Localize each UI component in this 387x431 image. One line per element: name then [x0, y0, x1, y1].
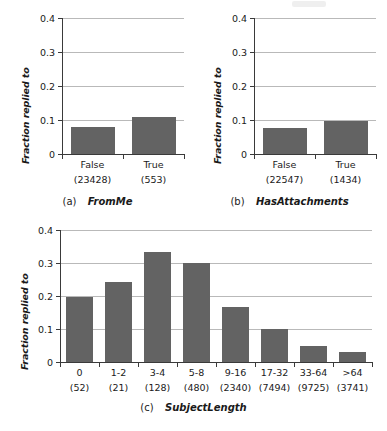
x-axis-count-label: (1434) [315, 174, 376, 185]
x-axis-count-label: (7494) [255, 382, 294, 393]
y-axis-tick-label: 0.1 [214, 115, 247, 126]
y-axis-tick-label: 0.4 [20, 225, 53, 236]
gridline [62, 18, 184, 19]
bar [183, 263, 210, 362]
x-axis-tick [184, 155, 185, 159]
y-axis-line [60, 230, 61, 363]
bar [71, 127, 115, 154]
x-axis-category-label: 0 [60, 367, 99, 378]
y-axis-tick-label: 0.2 [22, 81, 55, 92]
gridline [254, 86, 376, 87]
bar [144, 252, 171, 362]
y-axis-tick-label: 0.3 [214, 47, 247, 58]
gridline [60, 230, 372, 231]
x-axis-category-label: 5-8 [177, 367, 216, 378]
y-axis-tick-label: 0 [20, 357, 53, 368]
subcaption-a: (a) FromMe [0, 196, 195, 207]
x-axis-count-label: (553) [123, 174, 184, 185]
x-axis-tick [372, 363, 373, 367]
x-axis-count-label: (9725) [294, 382, 333, 393]
subcaption-a-title: FromMe [88, 196, 133, 207]
bar [339, 352, 366, 362]
x-axis-category-label: 17-32 [255, 367, 294, 378]
chart-panel-c: Fraction replied to 0(52)1-2(21)3-4(128)… [0, 224, 387, 431]
gridline [62, 86, 184, 87]
y-axis-tick-label: 0.2 [20, 291, 53, 302]
gridline [254, 52, 376, 53]
y-axis-tick-label: 0.3 [20, 258, 53, 269]
bar [66, 297, 93, 362]
x-axis-category-label: 9-16 [216, 367, 255, 378]
chart-panel-a: Fraction replied to False(23428)True(553… [0, 14, 195, 214]
y-axis-label-c: Fraction replied to [19, 273, 30, 370]
subcaption-b-tag: (b) [230, 196, 244, 207]
y-axis-tick-label: 0.3 [22, 47, 55, 58]
x-axis-category-label: False [62, 159, 123, 170]
y-axis-tick-label: 0.2 [214, 81, 247, 92]
x-axis-category-label: 1-2 [99, 367, 138, 378]
x-axis-count-label: (128) [138, 382, 177, 393]
subcaption-c-title: SubjectLength [165, 402, 247, 413]
y-axis-tick-label: 0.4 [214, 13, 247, 24]
gridline [62, 52, 184, 53]
page-bleed-artifact [292, 1, 326, 7]
x-axis-count-label: (21) [99, 382, 138, 393]
y-axis-line [62, 18, 63, 155]
x-axis-category-label: True [315, 159, 376, 170]
y-axis-tick-label: 0 [214, 149, 247, 160]
x-axis-count-label: (23428) [62, 174, 123, 185]
subcaption-c-tag: (c) [140, 402, 153, 413]
bar [324, 121, 368, 154]
x-axis-count-label: (3741) [333, 382, 372, 393]
subcaption-a-tag: (a) [63, 196, 77, 207]
subcaption-c: (c) SubjectLength [0, 402, 387, 413]
x-axis-count-label: (22547) [254, 174, 315, 185]
bar [132, 117, 176, 154]
bar [263, 128, 307, 154]
gridline [60, 263, 372, 264]
bar [222, 307, 249, 362]
x-axis-category-label: 33-64 [294, 367, 333, 378]
y-axis-tick-label: 0.1 [20, 324, 53, 335]
subcaption-b: (b) HasAttachments [192, 196, 387, 207]
x-axis-category-label: 3-4 [138, 367, 177, 378]
y-axis-line [254, 18, 255, 155]
bar [300, 346, 327, 362]
chart-panel-b: Fraction replied to False(22547)True(143… [192, 14, 387, 214]
x-axis-tick [376, 155, 377, 159]
x-axis-count-label: (52) [60, 382, 99, 393]
plot-area-c [60, 230, 372, 362]
gridline [254, 18, 376, 19]
x-axis-count-label: (480) [177, 382, 216, 393]
x-axis-category-label: False [254, 159, 315, 170]
plot-area-b [254, 18, 376, 154]
plot-area-a [62, 18, 184, 154]
y-axis-tick-label: 0.4 [22, 13, 55, 24]
x-axis-count-label: (2340) [216, 382, 255, 393]
x-axis-category-label: >64 [333, 367, 372, 378]
bar [105, 282, 132, 362]
subcaption-b-title: HasAttachments [256, 196, 349, 207]
bar [261, 329, 288, 362]
x-axis-category-label: True [123, 159, 184, 170]
y-axis-tick-label: 0.1 [22, 115, 55, 126]
y-axis-tick-label: 0 [22, 149, 55, 160]
figure-replied-fraction: Fraction replied to False(23428)True(553… [0, 0, 387, 431]
